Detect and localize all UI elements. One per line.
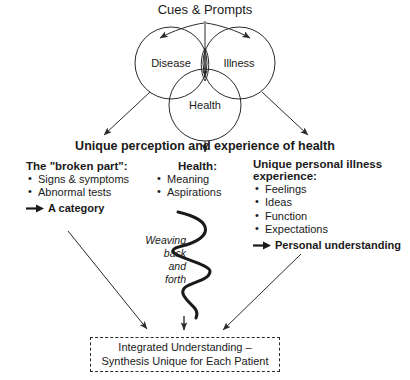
venn-label-illness: Illness xyxy=(208,57,270,70)
column-right-conclusion-label: Personal understanding xyxy=(275,239,401,251)
cues-to-illness-arrow xyxy=(206,23,250,38)
diagram-canvas: Cues & Prompts Disease Illness Health Un… xyxy=(0,0,410,380)
diagram-title: Cues & Prompts xyxy=(0,2,410,17)
list-item: Abnormal tests xyxy=(26,186,151,199)
list-item: Feelings xyxy=(253,183,405,196)
column-health: Health: Meaning Aspirations xyxy=(155,160,240,200)
column-left-conclusion: A category xyxy=(26,202,151,214)
venn-label-disease: Disease xyxy=(140,57,202,70)
column-right-bullets: Feelings Ideas Function Expectations xyxy=(253,183,405,237)
list-item: Ideas xyxy=(253,196,405,209)
list-item: Signs & symptoms xyxy=(26,173,151,186)
column-right-conclusion: Personal understanding xyxy=(253,239,405,251)
column-illness-experience: Unique personal illness experience: Feel… xyxy=(253,158,405,251)
outcome-box: Integrated Understanding – Synthesis Uni… xyxy=(90,337,280,372)
right-arrow-icon xyxy=(253,240,272,251)
right-arrow-icon xyxy=(26,203,45,214)
venn-to-left-column-arrow xyxy=(104,92,150,135)
column-middle-heading: Health: xyxy=(155,160,240,172)
column-left-conclusion-label: A category xyxy=(48,202,104,214)
column-left-heading: The "broken part": xyxy=(26,160,151,172)
right-to-outcome-arrow xyxy=(223,254,301,330)
column-left-bullets: Signs & symptoms Abnormal tests xyxy=(26,173,151,200)
cues-to-disease-arrow xyxy=(160,23,204,38)
column-broken-part: The "broken part": Signs & symptoms Abno… xyxy=(26,160,151,214)
list-item: Aspirations xyxy=(155,186,240,199)
outcome-line-2: Synthesis Unique for Each Patient xyxy=(102,355,269,369)
left-to-outcome-arrow xyxy=(68,231,147,329)
column-right-heading: Unique personal illness experience: xyxy=(253,158,405,182)
banner-text: Unique perception and experience of heal… xyxy=(0,139,410,154)
column-middle-bullets: Meaning Aspirations xyxy=(155,173,240,200)
venn-to-right-column-arrow xyxy=(262,92,308,135)
list-item: Meaning xyxy=(155,173,240,186)
outcome-line-1: Integrated Understanding – xyxy=(118,341,251,355)
venn-label-health: Health xyxy=(174,99,236,112)
list-item: Expectations xyxy=(253,223,405,236)
list-item: Function xyxy=(253,210,405,223)
weaving-label: Weaving back and forth xyxy=(138,234,186,287)
